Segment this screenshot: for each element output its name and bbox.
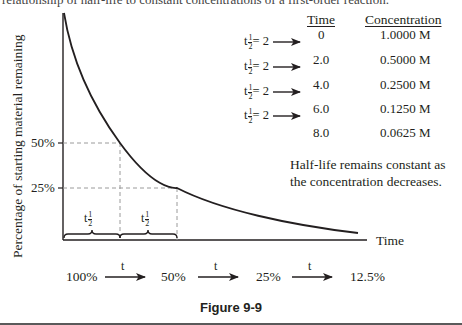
row-conc: 1.0000 M [380, 27, 431, 43]
row-conc: 0.5000 M [380, 52, 431, 68]
sequence-value: 25% [256, 269, 281, 285]
table-arrows [273, 42, 300, 116]
half-life-arrow-label: t12= 2 [244, 84, 269, 101]
row-conc: 0.0625 M [380, 125, 431, 141]
figure-caption: Figure 9-9 [0, 300, 462, 315]
table-header-concentration: Concentration [365, 12, 441, 28]
note-line-1: Half-life remains constant as [290, 156, 446, 173]
tick-label-50: 50% [31, 135, 55, 151]
sequence-value: 50% [161, 269, 186, 285]
note-line-2: the concentration decreases. [290, 173, 446, 190]
half-life-arrow-label: t12= 2 [244, 34, 269, 51]
half-life-arrow-label: t12= 2 [244, 108, 269, 125]
row-time: 6.0 [313, 101, 329, 117]
row-time: 2.0 [313, 52, 329, 68]
sequence-value: 12.5% [350, 269, 385, 285]
dashed-guides [63, 143, 177, 240]
row-time: 8.0 [313, 125, 329, 141]
x-axis-label: Time [376, 233, 404, 249]
sequence-arrow-label: t [214, 259, 217, 274]
decay-curve [64, 13, 358, 233]
half-life-arrow-label: t12= 2 [244, 59, 269, 76]
row-conc: 0.1250 M [380, 101, 431, 117]
y-axis-label: Percentage of starting material remainin… [10, 58, 26, 258]
half-life-brace-2 [120, 230, 177, 238]
tick-label-25: 25% [31, 180, 55, 196]
half-life-label-1: t12 [84, 211, 92, 228]
row-conc: 0.2500 M [380, 77, 431, 93]
row-time: 4.0 [313, 77, 329, 93]
half-life-brace-1 [64, 230, 120, 238]
half-life-label-2: t12 [141, 211, 149, 228]
sequence-value: 100% [66, 269, 98, 285]
table-header-time: Time [307, 12, 335, 28]
row-time: 0 [318, 27, 325, 43]
sequence-arrow-label: t [121, 259, 124, 274]
half-life-note: Half-life remains constant as the concen… [290, 156, 446, 190]
sequence-arrow-label: t [308, 259, 311, 274]
